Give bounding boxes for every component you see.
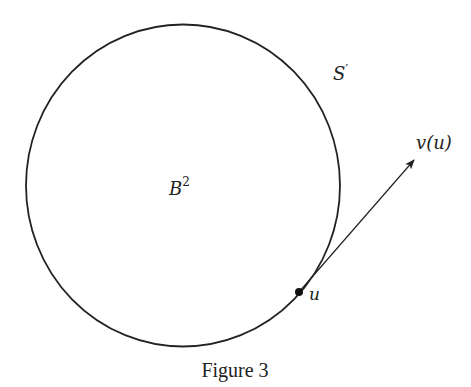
boundary-label-base: S <box>333 63 345 84</box>
tangent-vector-arrow <box>299 160 414 292</box>
disk-label-superscript: 2 <box>182 175 190 189</box>
point-label: u <box>309 284 320 304</box>
figure-caption: Figure 3 <box>201 359 268 382</box>
disk-label: B2 <box>168 175 190 199</box>
boundary-label-prime: ′ <box>345 62 348 77</box>
figure-diagram: B2 S′ v(u) u Figure 3 <box>0 0 471 387</box>
disk-label-base: B <box>168 178 182 199</box>
point-u-dot <box>295 288 303 296</box>
vector-label: v(u) <box>416 132 452 153</box>
boundary-label: S′ <box>333 62 348 84</box>
